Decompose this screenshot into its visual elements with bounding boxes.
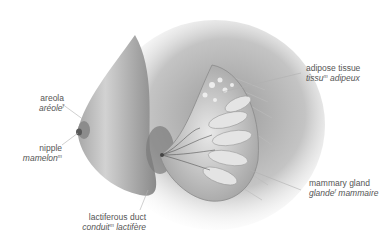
label-areola: areola aréolef	[12, 93, 64, 113]
duct-origin	[160, 153, 164, 157]
label-adipose-tissue: adipose tissue tissum adipeux	[306, 63, 360, 83]
areola-en: areola	[12, 93, 64, 103]
areola-fr: aréolef	[12, 103, 64, 113]
duct-en: lactiferous duct	[70, 212, 146, 222]
nipple-en: nipple	[6, 143, 62, 153]
nipple-fr: mamelonm	[6, 153, 62, 163]
adipose-fr: tissum adipeux	[306, 73, 360, 83]
label-nipple: nipple mamelonm	[6, 143, 62, 163]
diagram-canvas: areola aréolef nipple mamelonm adipose t…	[0, 0, 391, 244]
label-lactiferous-duct: lactiferous duct conduitm lactifère	[70, 212, 146, 232]
gland-fr: glandef mammaire	[309, 188, 378, 198]
label-mammary-gland: mammary gland glandef mammaire	[309, 178, 378, 198]
adipose-en: adipose tissue	[306, 63, 360, 73]
nipple-shape	[76, 129, 82, 136]
gland-en: mammary gland	[309, 178, 378, 188]
duct-fr: conduitm lactifère	[70, 222, 146, 232]
breast-anatomy-illustration	[0, 0, 391, 244]
